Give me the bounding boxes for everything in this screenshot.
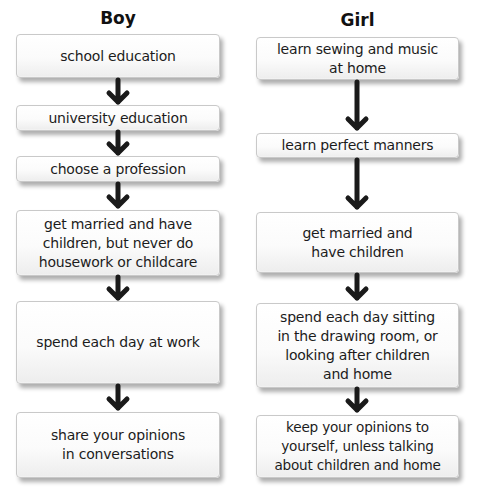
arrow-down-icon bbox=[106, 277, 130, 301]
girl-step-keep-opinions: keep your opinions to yourself, unless t… bbox=[256, 415, 459, 478]
girl-step-get-married: get married and have children bbox=[256, 212, 459, 273]
boy-step-choose-profession: choose a profession bbox=[16, 156, 220, 182]
boy-step-school-education: school education bbox=[16, 34, 220, 78]
arrow-down-icon bbox=[345, 82, 369, 131]
girl-step-drawing-room: spend each day sitting in the drawing ro… bbox=[256, 303, 459, 388]
girl-step-perfect-manners: learn perfect manners bbox=[256, 133, 459, 158]
girl-step-sewing-music: learn sewing and music at home bbox=[256, 37, 459, 80]
boy-heading: Boy bbox=[16, 8, 220, 28]
arrow-down-icon bbox=[345, 389, 369, 413]
boy-step-work: spend each day at work bbox=[16, 301, 220, 384]
arrow-down-icon bbox=[106, 184, 130, 209]
arrow-down-icon bbox=[106, 132, 130, 156]
boy-step-university-education: university education bbox=[16, 105, 220, 131]
arrow-down-icon bbox=[345, 275, 369, 301]
arrow-down-icon bbox=[106, 80, 130, 105]
girl-heading: Girl bbox=[256, 10, 459, 30]
boy-step-get-married: get married and have children, but never… bbox=[16, 210, 220, 276]
boy-step-share-opinions: share your opinions in conversations bbox=[16, 412, 220, 478]
flowchart-comparison: Boy school education university educatio… bbox=[0, 0, 483, 503]
arrow-down-icon bbox=[345, 160, 369, 210]
arrow-down-icon bbox=[106, 386, 130, 411]
